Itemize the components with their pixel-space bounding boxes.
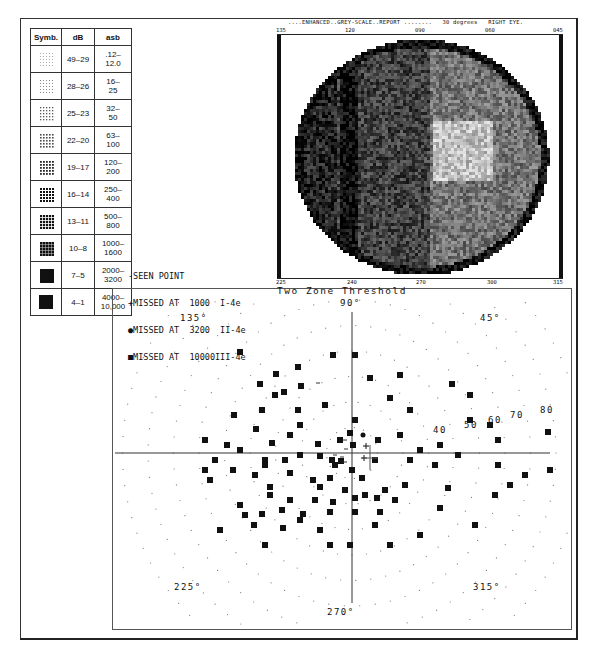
missed-10000-marker <box>251 522 257 528</box>
missed-10000-marker <box>237 349 243 355</box>
radial-label-70: 70 <box>510 410 524 420</box>
missed-10000-marker <box>282 457 288 463</box>
radial-label-50: 50 <box>464 420 478 430</box>
missed-10000-marker <box>312 497 318 503</box>
missed-10000-marker <box>387 395 393 401</box>
missed-10000-marker <box>407 407 413 413</box>
missed-10000-marker <box>262 462 268 468</box>
missed-10000-marker <box>317 453 323 459</box>
missed-10000-marker <box>217 527 223 533</box>
missed-10000-marker <box>392 497 398 503</box>
missed-10000-marker <box>382 487 388 493</box>
missed-10000-marker <box>287 470 293 476</box>
missed-10000-marker <box>407 457 413 463</box>
missed-10000-marker <box>347 542 353 548</box>
missed-10000-marker <box>202 437 208 443</box>
missed-10000-marker <box>397 372 403 378</box>
missed-10000-marker <box>257 381 263 387</box>
missed-10000-marker <box>547 467 553 473</box>
missed-10000-marker <box>545 429 551 435</box>
missed-10000-marker <box>372 522 378 528</box>
missed-10000-marker <box>437 505 443 511</box>
angle-label-270: 270° <box>327 607 355 617</box>
missed-10000-marker <box>352 417 358 423</box>
missed-10000-marker <box>295 407 301 413</box>
missed-1000-marker <box>363 443 369 449</box>
missed-10000-marker <box>332 462 338 468</box>
angle-label-45: 45° <box>480 313 501 323</box>
missed-10000-marker <box>281 389 287 395</box>
missed-10000-marker <box>224 442 230 448</box>
missed-10000-marker <box>317 527 323 533</box>
missed-10000-marker <box>267 492 273 498</box>
missed-10000-marker <box>287 497 293 503</box>
missed-10000-marker <box>259 407 265 413</box>
missed-10000-marker <box>507 482 513 488</box>
missed-10000-marker <box>374 495 380 501</box>
missed-10000-marker <box>287 432 293 438</box>
missed-10000-marker <box>492 492 498 498</box>
missed-10000-marker <box>402 482 408 488</box>
angle-label-315: 315° <box>473 582 501 592</box>
missed-3200-marker <box>361 433 366 438</box>
missed-10000-marker <box>327 475 333 481</box>
radial-label-80: 80 <box>540 405 554 415</box>
missed-10000-marker <box>230 467 236 473</box>
missed-10000-marker <box>375 437 381 443</box>
missed-10000-marker <box>322 402 328 408</box>
missed-10000-marker <box>330 499 336 505</box>
missed-10000-marker <box>352 352 358 358</box>
missed-10000-marker <box>455 452 461 458</box>
missed-10000-marker <box>377 509 383 515</box>
missed-10000-marker <box>237 502 243 508</box>
missed-10000-marker <box>297 422 303 428</box>
missed-10000-marker <box>237 447 243 453</box>
missed-10000-marker <box>417 532 423 538</box>
missed-10000-marker <box>495 437 501 443</box>
radial-label-40: 40 <box>433 425 447 435</box>
missed-10000-marker <box>231 412 237 418</box>
missed-10000-marker <box>259 511 265 517</box>
missed-10000-marker <box>349 467 355 473</box>
polar-plot <box>0 0 594 658</box>
missed-10000-marker <box>315 441 321 447</box>
missed-10000-marker <box>350 442 356 448</box>
missed-10000-marker <box>337 437 343 443</box>
missed-10000-marker <box>295 364 301 370</box>
missed-10000-marker <box>445 485 451 491</box>
missed-10000-marker <box>347 430 353 436</box>
missed-10000-marker <box>253 426 259 432</box>
missed-10000-marker <box>300 511 306 517</box>
missed-10000-marker <box>367 375 373 381</box>
missed-10000-marker <box>338 458 344 464</box>
missed-10000-marker <box>330 352 336 358</box>
missed-10000-marker <box>279 507 285 513</box>
missed-10000-marker <box>207 477 213 483</box>
missed-10000-marker <box>352 509 358 515</box>
missed-10000-marker <box>202 467 208 473</box>
missed-10000-marker <box>437 442 443 448</box>
missed-10000-marker <box>317 484 323 490</box>
missed-10000-marker <box>298 383 304 389</box>
angle-label-90: 90° <box>340 298 361 308</box>
missed-10000-marker <box>449 381 455 387</box>
missed-10000-marker <box>362 492 368 498</box>
missed-10000-marker <box>280 525 286 531</box>
missed-10000-marker <box>310 477 316 483</box>
missed-10000-marker <box>417 447 423 453</box>
missed-10000-marker <box>432 462 438 468</box>
angle-label-135: 135° <box>180 313 208 323</box>
missed-10000-marker <box>327 509 333 515</box>
missed-10000-marker <box>273 371 279 377</box>
missed-10000-marker <box>522 472 528 478</box>
missed-10000-marker <box>297 517 303 523</box>
radial-label-60: 60 <box>488 415 502 425</box>
missed-10000-marker <box>269 440 275 446</box>
missed-10000-marker <box>327 542 333 548</box>
missed-10000-marker <box>267 484 273 490</box>
missed-10000-marker <box>262 542 268 548</box>
angle-label-225: 225° <box>174 582 202 592</box>
missed-10000-marker <box>495 462 501 468</box>
missed-10000-marker <box>297 452 303 458</box>
missed-10000-marker <box>387 542 393 548</box>
